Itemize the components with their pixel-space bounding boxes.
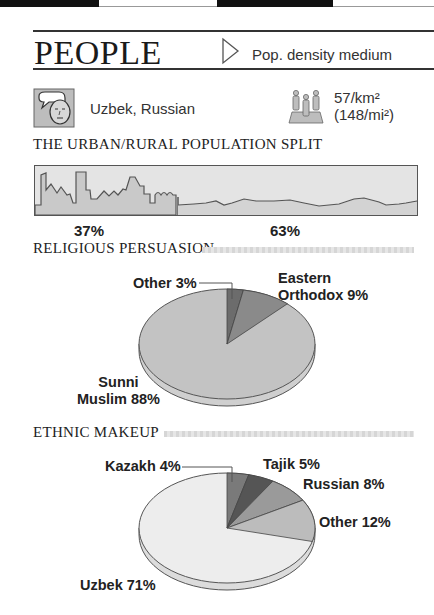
density-label: Pop. density medium	[252, 46, 392, 63]
ethnic-label-other: Other 12%	[319, 514, 391, 531]
religion-label-orthodox-line1: Eastern	[278, 270, 368, 287]
top-bar-segment	[217, 0, 333, 7]
religion-leader-line	[195, 275, 245, 305]
section-title-ethnic: ETHNIC MAKEUP	[33, 424, 159, 441]
rural-percent: 63%	[270, 222, 300, 239]
density-per-mi: (148/mi²)	[334, 106, 394, 123]
ethnic-leader-line	[180, 460, 240, 490]
religion-label-orthodox: Eastern Orthodox 9%	[278, 270, 368, 304]
section-title-urban-rural: THE URBAN/RURAL POPULATION SPLIT	[33, 136, 322, 153]
religion-label-other: Other 3%	[133, 275, 197, 292]
religion-label-sunni: Sunni Muslim 88%	[77, 374, 160, 408]
top-bar-segment	[0, 0, 99, 7]
header-bottom-rule	[33, 68, 434, 70]
religion-label-orthodox-line2: Orthodox 9%	[278, 287, 368, 304]
section-title-religion: RELIGIOUS PERSUASION	[33, 240, 214, 257]
density-per-km: 57/km²	[334, 89, 394, 106]
section-rule	[202, 247, 414, 253]
page-title: PEOPLE	[34, 34, 162, 72]
languages-text: Uzbek, Russian	[90, 100, 195, 117]
religion-label-sunni-line2: Muslim 88%	[77, 391, 160, 408]
ethnic-label-russian: Russian 8%	[303, 476, 384, 493]
ethnic-label-tajik: Tajik 5%	[263, 456, 320, 473]
ethnic-label-uzbek: Uzbek 71%	[80, 577, 156, 594]
religion-label-sunni-line1: Sunni	[77, 374, 160, 391]
section-rule	[164, 431, 414, 437]
urban-rural-chart	[34, 165, 418, 217]
triangle-pointer-icon	[221, 37, 241, 65]
ethnic-label-kazakh: Kazakh 4%	[105, 458, 181, 475]
header-top-rule	[33, 30, 434, 32]
urban-percent: 37%	[74, 222, 104, 239]
density-value: 57/km² (148/mi²)	[334, 89, 394, 123]
top-bar-segment	[99, 0, 217, 7]
speaking-head-icon	[33, 88, 75, 128]
top-bar-segment	[333, 0, 434, 7]
people-group-icon	[286, 88, 326, 124]
